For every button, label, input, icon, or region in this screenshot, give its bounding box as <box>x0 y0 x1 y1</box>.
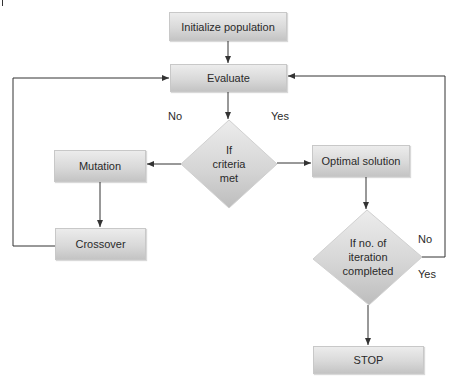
iteration-line-3: completed <box>343 264 394 278</box>
optimal-solution-label: Optimal solution <box>322 155 401 167</box>
criteria-line-2: criteria <box>212 157 245 171</box>
iteration-no-label: No <box>418 233 432 245</box>
stop-box: STOP <box>313 346 424 374</box>
stop-label: STOP <box>354 354 384 366</box>
mutation-label: Mutation <box>79 160 121 172</box>
initialize-population-label: Initialize population <box>181 21 275 33</box>
criteria-line-3: met <box>220 171 238 185</box>
evaluate-label: Evaluate <box>207 72 250 84</box>
optimal-solution-box: Optimal solution <box>312 145 410 177</box>
flowchart-canvas: Initialize population Evaluate Mutation … <box>0 0 457 387</box>
criteria-yes-label: Yes <box>271 110 289 122</box>
mutation-box: Mutation <box>54 150 146 182</box>
iteration-diamond-label: If no. of iteration completed <box>328 233 408 281</box>
iteration-line-2: iteration <box>348 250 387 264</box>
crossover-box: Crossover <box>55 228 146 260</box>
flowchart-connectors <box>0 0 457 387</box>
criteria-no-label: No <box>168 110 182 122</box>
criteria-line-1: If <box>226 143 232 157</box>
initialize-population-box: Initialize population <box>169 12 287 41</box>
criteria-diamond-label: If criteria met <box>195 140 263 188</box>
iteration-line-1: If no. of <box>350 236 387 250</box>
crossover-label: Crossover <box>75 238 125 250</box>
iteration-yes-label: Yes <box>418 268 436 280</box>
evaluate-box: Evaluate <box>170 64 287 92</box>
